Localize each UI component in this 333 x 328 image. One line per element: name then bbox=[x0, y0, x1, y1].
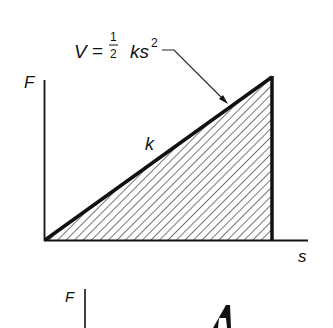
energy-formula: V = 1 2 ks 2 bbox=[74, 30, 158, 62]
top-figure: F s k V = 1 2 ks 2 bbox=[24, 30, 308, 266]
formula-numerator: 1 bbox=[110, 30, 117, 44]
bottom-figure: F bbox=[65, 288, 231, 328]
y-axis-label: F bbox=[24, 73, 36, 92]
formula-exponent: 2 bbox=[151, 36, 158, 50]
bottom-peak-shape bbox=[213, 305, 231, 328]
formula-denominator: 2 bbox=[110, 47, 117, 61]
bottom-y-axis-label: F bbox=[65, 288, 75, 305]
formula-equals: = bbox=[92, 40, 103, 61]
x-axis-label: s bbox=[298, 247, 307, 266]
formula-lhs: V bbox=[74, 41, 89, 62]
spring-energy-diagram: F s k V = 1 2 ks 2 F bbox=[0, 0, 333, 328]
slope-label: k bbox=[145, 134, 155, 154]
leader-arrow bbox=[162, 50, 224, 100]
formula-term: ks bbox=[130, 41, 150, 62]
